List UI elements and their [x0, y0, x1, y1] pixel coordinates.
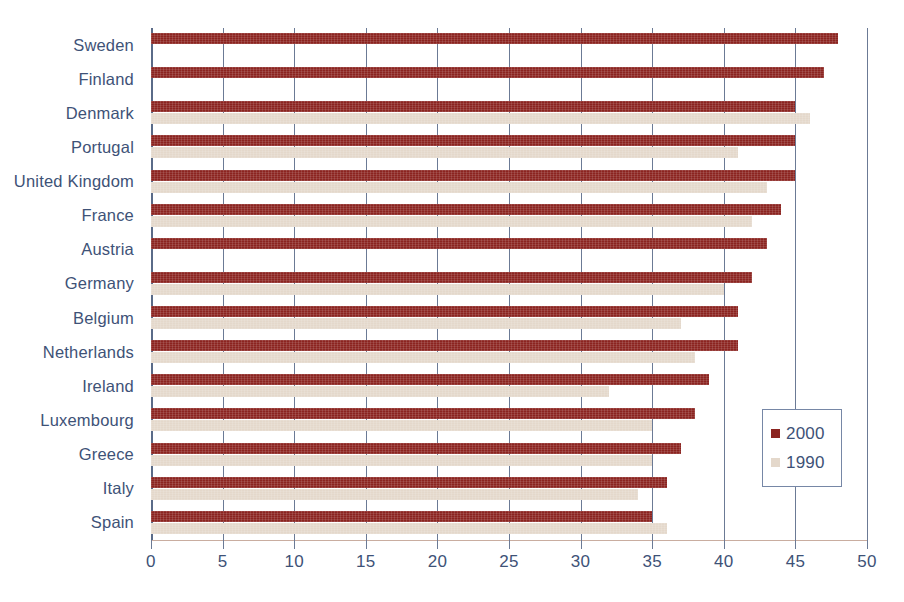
category-label: Ireland — [82, 369, 134, 403]
x-tick — [223, 540, 224, 549]
x-axis-tick-labels: 05101520253035404550 — [151, 552, 867, 582]
legend-swatch-icon — [771, 429, 780, 438]
bar-2000 — [151, 340, 738, 351]
plot-area — [151, 28, 867, 540]
x-tick-label: 25 — [499, 552, 519, 572]
bar-row — [151, 403, 867, 437]
bar-chart: SwedenFinlandDenmarkPortugalUnited Kingd… — [0, 0, 904, 602]
bar-row — [151, 130, 867, 164]
x-tick — [366, 540, 367, 549]
legend-label: 2000 — [786, 424, 825, 444]
bar-row — [151, 369, 867, 403]
bar-1990 — [151, 147, 738, 158]
category-label: Austria — [81, 233, 134, 267]
bar-2000 — [151, 204, 781, 215]
bar-2000 — [151, 511, 652, 522]
bar-row — [151, 438, 867, 472]
legend-item[interactable]: 1990 — [771, 448, 841, 477]
x-tick-label: 15 — [356, 552, 376, 572]
category-label: Netherlands — [43, 335, 134, 369]
bar-row — [151, 506, 867, 540]
bar-1990 — [151, 523, 667, 534]
x-tick — [867, 540, 868, 549]
x-tick-label: 50 — [857, 552, 877, 572]
bar-2000 — [151, 477, 667, 488]
x-tick — [437, 540, 438, 549]
x-axis-ticks — [151, 540, 867, 550]
category-label: Belgium — [73, 301, 134, 335]
x-tick-label: 5 — [218, 552, 228, 572]
legend-label: 1990 — [786, 453, 825, 473]
bar-row — [151, 96, 867, 130]
bar-1990 — [151, 216, 752, 227]
x-tick — [151, 540, 152, 549]
bar-2000 — [151, 135, 795, 146]
bar-2000 — [151, 374, 709, 385]
bar-2000 — [151, 408, 695, 419]
category-label: Portugal — [71, 130, 134, 164]
bar-row — [151, 472, 867, 506]
bar-1990 — [151, 284, 724, 295]
bar-rows — [151, 28, 867, 540]
bar-row — [151, 165, 867, 199]
x-tick-label: 35 — [642, 552, 662, 572]
bar-row — [151, 199, 867, 233]
category-label: Italy — [103, 472, 134, 506]
x-tick — [724, 540, 725, 549]
category-label: Germany — [65, 267, 134, 301]
bar-row — [151, 28, 867, 62]
x-tick-label: 10 — [284, 552, 304, 572]
bar-row — [151, 267, 867, 301]
bar-2000 — [151, 67, 824, 78]
legend-swatch-icon — [771, 458, 780, 467]
category-label: Finland — [78, 62, 134, 96]
x-tick — [294, 540, 295, 549]
gridline-50 — [867, 28, 868, 540]
bar-2000 — [151, 170, 795, 181]
bar-1990 — [151, 455, 652, 466]
category-label: Denmark — [66, 96, 134, 130]
bar-2000 — [151, 443, 681, 454]
bar-1990 — [151, 113, 810, 124]
bar-1990 — [151, 182, 767, 193]
bar-2000 — [151, 33, 838, 44]
category-label: Luxembourg — [40, 403, 134, 437]
x-tick-label: 45 — [786, 552, 806, 572]
bar-1990 — [151, 420, 652, 431]
x-tick — [509, 540, 510, 549]
x-tick-label: 30 — [571, 552, 591, 572]
bar-row — [151, 233, 867, 267]
x-tick-label: 20 — [428, 552, 448, 572]
bar-1990 — [151, 386, 609, 397]
category-label: Sweden — [73, 28, 134, 62]
x-tick-label: 40 — [714, 552, 734, 572]
bar-1990 — [151, 352, 695, 363]
bar-2000 — [151, 238, 767, 249]
bar-2000 — [151, 272, 752, 283]
category-label: United Kingdom — [14, 165, 134, 199]
x-tick — [581, 540, 582, 549]
category-label: France — [81, 199, 134, 233]
x-tick-label: 0 — [146, 552, 156, 572]
category-label: Greece — [79, 438, 134, 472]
bar-2000 — [151, 101, 795, 112]
bar-row — [151, 301, 867, 335]
bar-2000 — [151, 306, 738, 317]
bar-row — [151, 62, 867, 96]
x-tick — [652, 540, 653, 549]
bar-1990 — [151, 318, 681, 329]
bar-1990 — [151, 489, 638, 500]
chart-legend: 20001990 — [762, 409, 842, 487]
category-axis-labels: SwedenFinlandDenmarkPortugalUnited Kingd… — [0, 28, 143, 540]
category-label: Spain — [91, 506, 134, 540]
x-tick — [795, 540, 796, 549]
legend-item[interactable]: 2000 — [771, 419, 841, 448]
bar-row — [151, 335, 867, 369]
